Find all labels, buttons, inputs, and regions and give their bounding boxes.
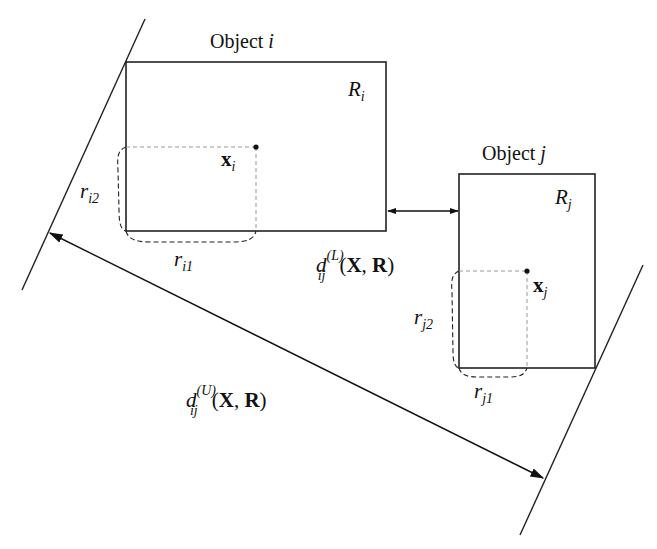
lower-distance-label: d(L)ij(X, R) [316,248,394,283]
object-i-r1-brace [126,231,256,242]
right-support-line [520,265,643,535]
object-i-region-label: Ri [347,77,365,104]
upper-distance-arrow [50,233,543,478]
object-i-title: Object i [210,30,274,53]
diagram-canvas: Object i Ri xi ri2 ri1 Object j Rj xj rj… [0,0,657,549]
object-i-r2-brace [118,147,126,231]
upper-distance-label: d(U)ij(X, R) [186,383,267,418]
object-i-center-label: xi [221,147,236,174]
object-i-center-point [253,144,258,149]
object-i-r1-label: ri1 [174,247,193,274]
object-j-center-point [524,268,529,273]
object-j-r2-label: rj2 [414,305,433,332]
object-j-title: Object j [482,142,546,165]
object-i-r2-label: ri2 [80,179,99,206]
object-j-center-label: xj [533,273,548,300]
object-j-r1-label: rj1 [474,379,493,406]
object-j-r1-brace [459,368,527,377]
object-j-region-label: Rj [554,185,572,212]
object-j-r2-brace [452,271,459,368]
